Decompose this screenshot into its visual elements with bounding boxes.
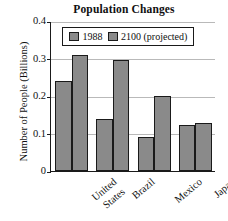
legend-label: 2100 (projected) <box>121 31 187 42</box>
bar-united-states-1988 <box>55 81 72 171</box>
y-axis-tick-label: 0.3 <box>6 53 46 64</box>
y-axis-tick-mark <box>47 22 51 23</box>
bar-japan-1988 <box>179 125 196 171</box>
y-axis-tick-mark <box>47 134 51 135</box>
bar-united-states-2100 <box>72 55 89 171</box>
legend-label: 1988 <box>83 31 103 42</box>
bar-brazil-2100 <box>113 60 130 171</box>
y-axis-tick-mark <box>47 97 51 98</box>
legend-swatch-icon <box>69 32 79 41</box>
legend-entry-1988: 1988 <box>69 31 103 42</box>
x-axis-tick-line: Brazil <box>130 176 158 202</box>
x-axis-tick-label-mexico: Mexico <box>173 176 206 206</box>
y-axis-tick-mark <box>47 59 51 60</box>
bar-japan-2100 <box>195 123 212 171</box>
legend-entry-2100: 2100 (projected) <box>108 31 188 42</box>
y-axis-tick-label: 0.1 <box>6 128 46 139</box>
x-axis-tick-line: Mexico <box>173 176 206 206</box>
y-axis-tick-label: 0.2 <box>6 90 46 101</box>
y-axis-tick-mark <box>47 172 51 173</box>
y-axis-tick-label: 0 <box>6 165 46 176</box>
x-axis-tick-label-brazil: Brazil <box>130 176 158 202</box>
chart-legend: 19882100 (projected) <box>62 27 194 46</box>
y-axis-title: Number of People (Billions) <box>18 22 29 182</box>
chart-title: Population Changes <box>34 3 214 15</box>
bar-mexico-1988 <box>138 137 155 171</box>
chart-figure: Population Changes Number of People (Bil… <box>0 0 228 221</box>
bar-mexico-2100 <box>154 96 171 171</box>
plot-area: 19882100 (projected) <box>50 22 215 172</box>
legend-swatch-icon <box>108 32 118 41</box>
bar-brazil-1988 <box>96 119 113 172</box>
y-axis-tick-label: 0.4 <box>6 15 46 26</box>
x-axis-tick-line: Japan <box>212 176 228 201</box>
gridline <box>51 22 215 23</box>
x-axis-tick-label-japan: Japan <box>212 176 228 201</box>
x-axis-tick-label-united-states: UnitedStates <box>89 176 127 214</box>
